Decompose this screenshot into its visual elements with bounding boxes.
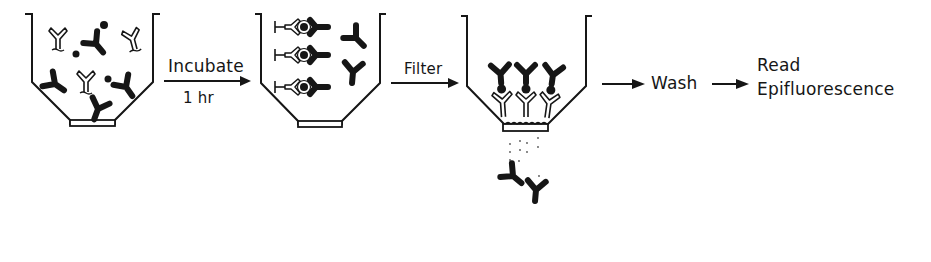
funnel-3 [461, 16, 592, 202]
label-wash: Wash [651, 73, 698, 93]
label-incubate: Incubate [168, 56, 244, 76]
arrow-to-wash [602, 79, 645, 89]
label-epifluorescence: Epifluorescence [757, 79, 894, 99]
diagram-canvas [0, 0, 931, 262]
funnel-1 [25, 14, 160, 126]
arrow-incubate [164, 76, 251, 86]
arrow-to-read [712, 79, 749, 89]
label-filter: Filter [404, 60, 442, 78]
label-incubate-time: 1 hr [183, 89, 214, 107]
arrow-filter [391, 78, 459, 88]
label-read: Read [757, 55, 801, 75]
funnel-2 [255, 14, 386, 127]
